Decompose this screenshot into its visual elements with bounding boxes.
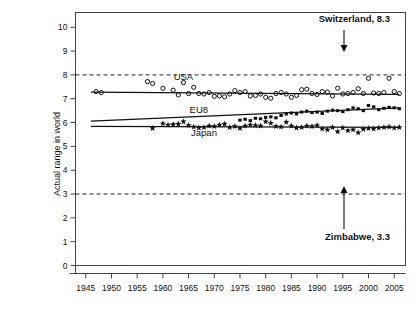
x-tick-label: 2005 [385, 283, 404, 293]
y-tick-label: 2 [63, 213, 68, 223]
y-tick-label: 8 [63, 70, 68, 80]
data-point [254, 117, 257, 120]
x-tick-label: 2000 [359, 283, 378, 293]
x-tick-label: 1985 [282, 283, 301, 293]
x-tick-label: 1975 [231, 283, 250, 293]
data-point [243, 118, 246, 121]
data-point [295, 112, 298, 115]
data-point [382, 107, 385, 110]
y-axis-title: Actual range in world [52, 112, 62, 196]
data-point [310, 111, 313, 114]
data-point [269, 115, 272, 118]
data-point [362, 109, 365, 112]
data-point [238, 119, 241, 122]
y-tick-label: 3 [63, 189, 68, 199]
data-point [326, 110, 329, 113]
y-tick-label: 6 [63, 118, 68, 128]
y-tick-label: 10 [58, 22, 68, 32]
y-tick-label: 5 [63, 141, 68, 151]
data-point [331, 109, 334, 112]
data-point [346, 108, 349, 111]
y-tick-label: 9 [63, 46, 68, 56]
x-tick-label: 1970 [205, 283, 224, 293]
data-point [274, 116, 277, 119]
data-point [336, 109, 339, 112]
x-tick-label: 1960 [153, 283, 172, 293]
data-point [377, 108, 380, 111]
data-point [398, 107, 401, 110]
data-point [300, 111, 303, 114]
data-point [387, 106, 390, 109]
x-tick-label: 1990 [308, 283, 327, 293]
y-tick-label: 1 [63, 237, 68, 247]
data-point [351, 106, 354, 109]
data-point [357, 107, 360, 110]
series-label-usa: USA [174, 71, 194, 82]
switzerland-annotation-label: Switzerland, 8.3 [319, 13, 390, 24]
data-point [315, 111, 318, 114]
x-tick-label: 1965 [179, 283, 198, 293]
y-tick-label: 7 [63, 94, 68, 104]
data-point [321, 112, 324, 115]
x-tick-label: 1995 [333, 283, 352, 293]
data-point [341, 110, 344, 113]
y-tick-label: 0 [63, 261, 68, 271]
chart-container: 012345678910 194519501955196019651970197… [0, 0, 419, 328]
data-point [305, 110, 308, 113]
series-label-japan: Japan [191, 127, 217, 138]
happiness-scatter-chart: 012345678910 194519501955196019651970197… [0, 0, 419, 328]
series-label-eu8: EU8 [190, 104, 208, 115]
x-tick-label: 1945 [76, 283, 95, 293]
zimbabwe-annotation-label: Zimbabwe, 3.3 [325, 231, 390, 242]
x-tick-label: 1980 [256, 283, 275, 293]
data-point [372, 105, 375, 108]
data-point [285, 112, 288, 115]
data-point [392, 106, 395, 109]
data-point [259, 117, 262, 120]
data-point [279, 114, 282, 117]
x-tick-label: 1955 [128, 283, 147, 293]
y-tick-label: 4 [63, 165, 68, 175]
x-tick-label: 1950 [102, 283, 121, 293]
data-point [290, 112, 293, 115]
data-point [367, 104, 370, 107]
